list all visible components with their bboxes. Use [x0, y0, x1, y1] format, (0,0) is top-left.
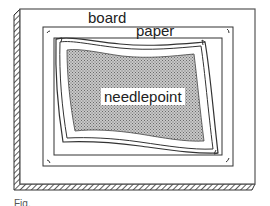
- paper-label: paper: [136, 23, 174, 38]
- board-label: board: [88, 10, 126, 25]
- figure-caption: Fig.: [14, 196, 31, 206]
- needlepoint-label: needlepoint: [101, 88, 185, 105]
